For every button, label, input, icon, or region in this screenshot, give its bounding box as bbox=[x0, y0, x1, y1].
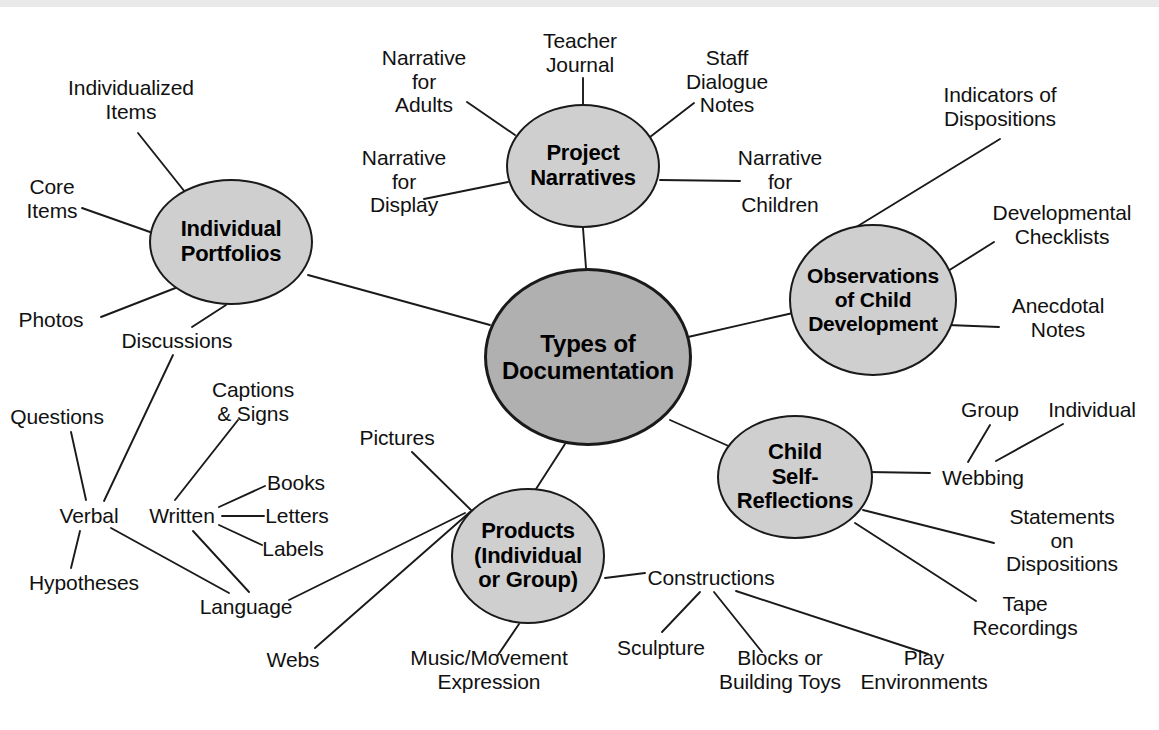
node-project-narratives[interactable]: Project Narratives bbox=[506, 104, 660, 228]
leaf-label-written[interactable]: Written bbox=[149, 504, 214, 528]
leaf-label-anecdotal-notes[interactable]: Anecdotal Notes bbox=[1012, 294, 1105, 341]
leaf-label-letters[interactable]: Letters bbox=[265, 504, 329, 528]
leaf-label-photos[interactable]: Photos bbox=[19, 308, 84, 332]
leaf-label-narrative-for-children[interactable]: Narrative for Children bbox=[738, 146, 822, 217]
leaf-label-captions-signs[interactable]: Captions & Signs bbox=[212, 378, 294, 425]
connector-written-to-books bbox=[219, 486, 265, 507]
leaf-label-verbal[interactable]: Verbal bbox=[60, 504, 119, 528]
connector-individual-portfolios-to-discussions bbox=[192, 305, 226, 327]
leaf-label-staff-dialogue-notes[interactable]: Staff Dialogue Notes bbox=[686, 46, 768, 117]
leaf-label-language[interactable]: Language bbox=[200, 595, 293, 619]
connector-individual-portfolios-to-photos bbox=[101, 287, 178, 317]
connector-captions-signs-to-written bbox=[175, 420, 238, 500]
node-observations-of-child-development[interactable]: Observations of Child Development bbox=[789, 224, 957, 376]
leaf-label-narrative-for-display[interactable]: Narrative for Display bbox=[362, 146, 446, 217]
leaf-label-discussions[interactable]: Discussions bbox=[122, 329, 233, 353]
node-child-self-reflections[interactable]: Child Self- Reflections bbox=[717, 415, 873, 539]
leaf-label-labels[interactable]: Labels bbox=[262, 537, 323, 561]
connector-center-to-products-individual-or-group bbox=[536, 444, 565, 489]
node-label-products-individual-or-group: Products (Individual or Group) bbox=[468, 519, 588, 594]
leaf-label-tape-recordings[interactable]: Tape Recordings bbox=[972, 592, 1077, 639]
node-label-project-narratives: Project Narratives bbox=[524, 141, 642, 191]
leaf-label-indicators-of-dispositions[interactable]: Indicators of Dispositions bbox=[943, 83, 1056, 130]
documentation-mind-map-diagram: Types of DocumentationIndividual Portfol… bbox=[0, 0, 1159, 730]
leaf-label-core-items[interactable]: Core Items bbox=[27, 175, 78, 222]
connector-observations-of-child-development-to-indicators-of-dispositions bbox=[853, 139, 1000, 229]
leaf-label-individualized-items[interactable]: Individualized Items bbox=[68, 76, 194, 123]
leaf-label-individual[interactable]: Individual bbox=[1048, 398, 1136, 422]
leaf-label-sculpture[interactable]: Sculpture bbox=[617, 636, 705, 660]
connector-constructions-to-blocks-or-building-toys bbox=[714, 592, 762, 652]
node-label-center: Types of Documentation bbox=[496, 330, 680, 384]
node-individual-portfolios[interactable]: Individual Portfolios bbox=[149, 179, 313, 305]
leaf-label-pictures[interactable]: Pictures bbox=[359, 426, 434, 450]
connector-center-to-individual-portfolios bbox=[308, 275, 490, 325]
connector-constructions-to-play-environments bbox=[736, 591, 928, 654]
leaf-label-teacher-journal[interactable]: Teacher Journal bbox=[543, 29, 617, 76]
leaf-label-play-environments[interactable]: Play Environments bbox=[860, 646, 987, 693]
connector-verbal-to-hypotheses bbox=[71, 531, 80, 568]
connector-observations-of-child-development-to-anecdotal-notes bbox=[948, 325, 999, 327]
connector-child-self-reflections-to-statements-on-dispositions bbox=[863, 510, 994, 543]
connector-webs-to-products-individual-or-group bbox=[315, 512, 470, 648]
connector-questions-to-verbal bbox=[71, 432, 86, 500]
connector-child-self-reflections-to-webbing bbox=[868, 472, 930, 473]
leaf-label-hypotheses[interactable]: Hypotheses bbox=[29, 571, 139, 595]
leaf-label-statements-on-dispositions[interactable]: Statements on Dispositions bbox=[1006, 505, 1118, 576]
leaf-label-webs[interactable]: Webs bbox=[267, 648, 320, 672]
connector-discussions-to-verbal bbox=[104, 355, 173, 501]
node-label-observations-of-child-development: Observations of Child Development bbox=[801, 264, 945, 335]
connector-project-narratives-to-narrative-for-children bbox=[660, 180, 740, 181]
connector-written-to-language bbox=[193, 531, 249, 592]
leaf-label-developmental-checklists[interactable]: Developmental Checklists bbox=[993, 201, 1132, 248]
leaf-label-music-movement-expression[interactable]: Music/Movement Expression bbox=[410, 646, 567, 693]
connector-center-to-project-narratives bbox=[583, 228, 586, 268]
connector-products-individual-or-group-to-constructions bbox=[605, 573, 645, 578]
connector-project-narratives-to-narrative-for-adults bbox=[467, 102, 515, 135]
connector-constructions-to-sculpture bbox=[662, 592, 700, 632]
node-label-individual-portfolios: Individual Portfolios bbox=[175, 217, 288, 267]
leaf-label-questions[interactable]: Questions bbox=[10, 405, 104, 429]
connector-webbing-to-individual bbox=[996, 424, 1063, 461]
leaf-label-books[interactable]: Books bbox=[267, 471, 325, 495]
leaf-label-constructions[interactable]: Constructions bbox=[647, 566, 774, 590]
connector-individual-portfolios-to-core-items bbox=[82, 208, 150, 232]
connector-individual-portfolios-to-individualized-items bbox=[138, 133, 185, 192]
leaf-label-webbing[interactable]: Webbing bbox=[942, 466, 1024, 490]
leaf-label-group[interactable]: Group bbox=[961, 398, 1019, 422]
leaf-label-blocks-or-building-toys[interactable]: Blocks or Building Toys bbox=[719, 646, 841, 693]
connector-center-to-observations-of-child-development bbox=[688, 313, 793, 337]
node-products-individual-or-group[interactable]: Products (Individual or Group) bbox=[451, 488, 605, 624]
connector-written-to-labels bbox=[219, 525, 262, 545]
node-label-child-self-reflections: Child Self- Reflections bbox=[731, 440, 859, 515]
node-center[interactable]: Types of Documentation bbox=[484, 268, 692, 446]
connector-webbing-to-group bbox=[968, 425, 990, 462]
connector-products-individual-or-group-to-pictures bbox=[412, 452, 473, 512]
leaf-label-narrative-for-adults[interactable]: Narrative for Adults bbox=[382, 46, 466, 117]
